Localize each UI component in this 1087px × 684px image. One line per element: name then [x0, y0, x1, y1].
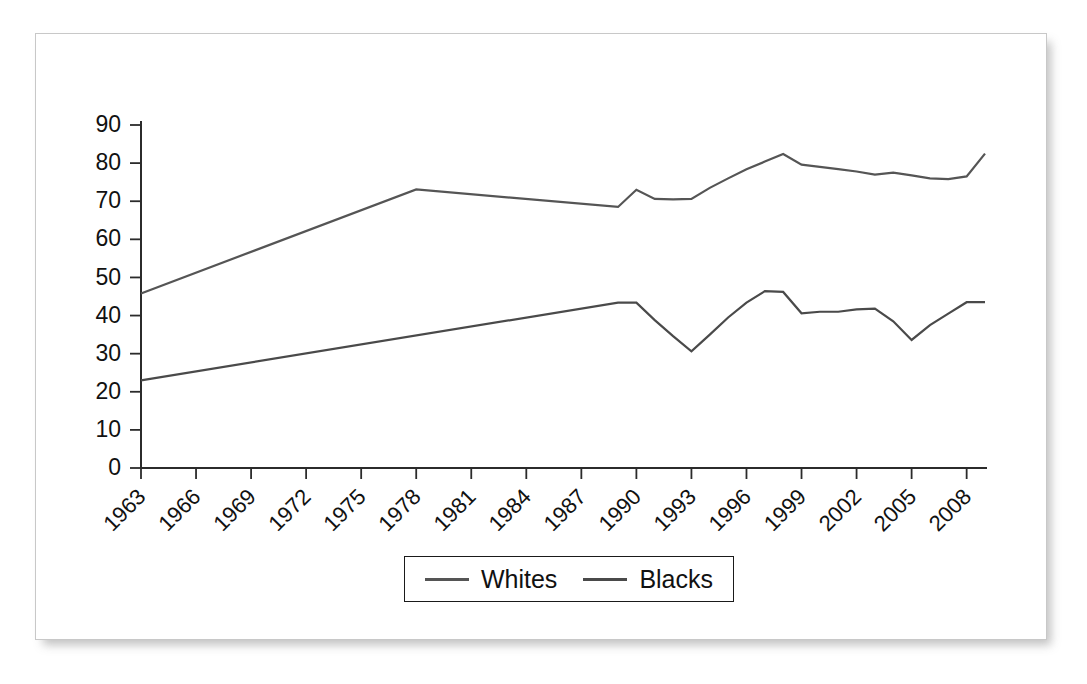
legend-entry-blacks: Blacks [583, 565, 713, 594]
y-tick-label: 60 [95, 225, 121, 251]
y-tick-label: 0 [108, 454, 121, 480]
x-tick-label: 1969 [208, 484, 260, 536]
series-line-blacks [141, 291, 985, 380]
x-tick-label: 1978 [373, 484, 425, 536]
legend-label: Whites [481, 565, 557, 594]
y-axis: 0102030405060708090 [95, 111, 141, 480]
legend-label: Blacks [639, 565, 713, 594]
x-tick-label: 1975 [318, 484, 370, 536]
y-tick-label: 50 [95, 264, 121, 290]
legend-entry-whites: Whites [425, 565, 557, 594]
x-tick-label: 1990 [594, 484, 646, 536]
x-tick-label: 1981 [429, 484, 481, 536]
series-lines [141, 154, 985, 381]
chart-legend: WhitesBlacks [404, 556, 734, 602]
x-tick-label: 1963 [98, 484, 150, 536]
x-tick-label: 2005 [869, 484, 921, 536]
y-tick-label: 20 [95, 378, 121, 404]
y-tick-label: 70 [95, 187, 121, 213]
y-tick-label: 40 [95, 302, 121, 328]
x-tick-label: 1966 [153, 484, 205, 536]
x-tick-label: 1984 [484, 484, 536, 536]
x-tick-label: 2002 [814, 484, 866, 536]
legend-line-icon [425, 578, 469, 581]
y-tick-label: 80 [95, 149, 121, 175]
y-tick-label: 90 [95, 111, 121, 137]
x-tick-label: 1996 [704, 484, 756, 536]
x-axis: 1963196619691972197519781981198419871990… [98, 468, 987, 536]
y-tick-label: 30 [95, 340, 121, 366]
y-tick-label: 10 [95, 416, 121, 442]
x-tick-label: 1972 [263, 484, 315, 536]
x-tick-label: 1999 [759, 484, 811, 536]
legend-line-icon [583, 578, 627, 581]
x-tick-label: 2008 [924, 484, 976, 536]
x-tick-label: 1993 [649, 484, 701, 536]
series-line-whites [141, 154, 985, 294]
x-tick-label: 1987 [539, 484, 591, 536]
